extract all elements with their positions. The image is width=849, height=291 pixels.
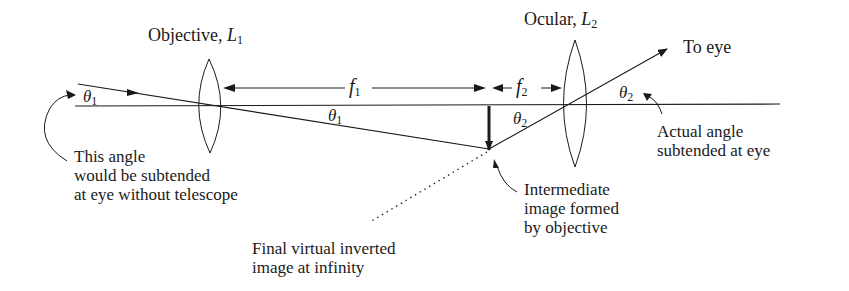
ocular-symbol: L bbox=[581, 9, 591, 29]
intermediate-image-leader-arrowhead-icon bbox=[493, 159, 499, 168]
theta2-right-label: θ2 bbox=[619, 83, 633, 107]
f1-right-arrowhead-icon bbox=[474, 84, 486, 92]
theta2-mid-subscript: 2 bbox=[521, 116, 527, 130]
ocular-lens bbox=[564, 40, 587, 167]
ocular-label-text: Ocular, bbox=[524, 9, 581, 29]
f1-left-arrowhead-icon bbox=[223, 84, 235, 92]
theta1-left-subscript: 1 bbox=[91, 94, 97, 108]
objective-label: Objective, L1 bbox=[148, 26, 243, 50]
theta2-right-subscript: 2 bbox=[627, 90, 633, 104]
f1-label: f1 bbox=[349, 77, 361, 102]
ocular-label: Ocular, L2 bbox=[524, 10, 597, 34]
objective-symbol: L bbox=[227, 25, 237, 45]
virtual-image-dotted-line bbox=[370, 152, 487, 222]
intermediate-image-annotation: Intermediate image formed by objective bbox=[524, 180, 619, 237]
without-telescope-leader bbox=[44, 95, 70, 161]
actual-angle-leader bbox=[648, 96, 662, 114]
ocular-subscript: 2 bbox=[591, 17, 597, 31]
theta2-mid-label: θ2 bbox=[513, 109, 527, 133]
intermediate-image-line-3: by objective bbox=[524, 218, 619, 237]
intermediate-image-leader bbox=[497, 166, 517, 192]
intermediate-image-line-1: Intermediate bbox=[524, 180, 619, 199]
without-telescope-leader-arrowhead-icon bbox=[66, 90, 76, 99]
actual-angle-line-1: Actual angle bbox=[657, 122, 770, 141]
final-image-line-2: image at infinity bbox=[252, 258, 396, 277]
theta1-mid-subscript: 1 bbox=[336, 113, 342, 127]
f2-subscript: 2 bbox=[522, 85, 528, 99]
final-image-annotation: Final virtual inverted image at infinity bbox=[252, 239, 396, 277]
theta1-left-label: θ1 bbox=[83, 87, 97, 111]
actual-angle-annotation: Actual angle subtended at eye bbox=[657, 122, 770, 160]
intermediate-image-line-2: image formed bbox=[524, 199, 619, 218]
incoming-ray bbox=[78, 84, 489, 149]
optical-axis bbox=[75, 104, 780, 106]
f2-right-arrowhead-icon bbox=[551, 84, 562, 92]
without-telescope-annotation: This angle would be subtended at eye wit… bbox=[74, 147, 238, 204]
objective-label-text: Objective, bbox=[148, 25, 227, 45]
without-telescope-line-2: would be subtended bbox=[74, 166, 238, 185]
f1-subscript: 1 bbox=[355, 85, 361, 99]
actual-angle-line-2: subtended at eye bbox=[657, 141, 770, 160]
without-telescope-line-3: at eye without telescope bbox=[74, 185, 238, 204]
final-image-line-1: Final virtual inverted bbox=[252, 239, 396, 258]
to-eye-label: To eye bbox=[683, 38, 731, 57]
f2-label: f2 bbox=[516, 77, 528, 102]
objective-subscript: 1 bbox=[237, 33, 243, 47]
theta1-mid-label: θ1 bbox=[328, 106, 342, 130]
ray-direction-arrow-icon bbox=[127, 89, 139, 96]
without-telescope-line-1: This angle bbox=[74, 147, 238, 166]
